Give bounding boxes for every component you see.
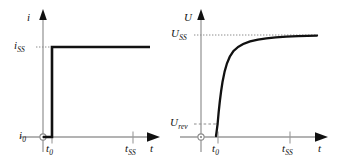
current-step-trace [43, 47, 150, 137]
ytick-uss-subscript: SS [179, 33, 187, 42]
ytick-urev-symbol: U [170, 116, 178, 128]
y-axis-label: i [27, 12, 30, 23]
figure-canvas: i t iSS i0 t0 tSS [0, 0, 339, 165]
voltage-rise-trace [216, 36, 317, 136]
ytick-label-i0: i0 [19, 130, 26, 141]
ytick-label-urev: Urev [170, 117, 187, 128]
xtick-tss-subscript: SS [128, 148, 136, 157]
ytick-i0-subscript: 0 [22, 135, 26, 144]
x-axis-arrowhead-icon [147, 132, 160, 142]
x-axis-label: t [150, 143, 153, 154]
y-axis-arrowhead-icon [197, 9, 205, 20]
xtick-label-t0: t0 [46, 143, 53, 154]
current-panel: i t iSS i0 t0 tSS [0, 0, 170, 165]
y-axis-label: U [184, 12, 192, 23]
voltage-plot-svg [170, 0, 339, 165]
xtick-label-tss: tSS [282, 143, 293, 154]
ytick-label-uss: USS [171, 28, 186, 39]
voltage-panel: U t USS Urev t0 tSS [170, 0, 339, 165]
ytick-uss-symbol: U [171, 27, 179, 39]
xtick-t0-subscript: 0 [215, 148, 219, 157]
x-axis-arrowhead-icon [315, 132, 328, 142]
xtick-label-t0: t0 [212, 143, 219, 154]
ytick-urev-subscript: rev [178, 122, 187, 131]
x-axis-label: t [318, 143, 321, 154]
xtick-t0-subscript: 0 [49, 148, 53, 157]
xtick-tss-subscript: SS [285, 148, 293, 157]
ytick-label-iss: iSS [14, 40, 25, 51]
origin-marker-dot [200, 136, 202, 138]
xtick-label-tss: tSS [125, 143, 136, 154]
y-axis-arrowhead-icon [39, 9, 47, 20]
ytick-iss-subscript: SS [17, 45, 25, 54]
